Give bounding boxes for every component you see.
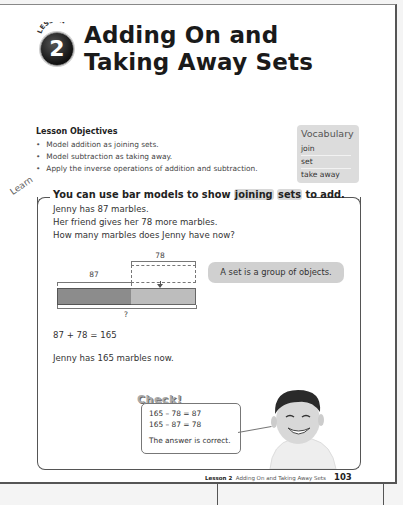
vocabulary-item: set [301, 156, 351, 169]
title-line-2: Taking Away Sets [84, 49, 313, 76]
problem-line: Her friend gives her 78 more marbles. [53, 217, 217, 227]
bar-label-whole: ? [118, 310, 134, 319]
objectives-list: Model addition as joining sets. Model su… [36, 139, 258, 175]
bar-label-87: 87 [84, 270, 104, 279]
objectives-heading: Lesson Objectives [36, 127, 117, 136]
lesson-badge: LESSON 2 [36, 22, 78, 64]
brace-total [57, 305, 197, 309]
set-definition-bubble: A set is a group of objects. [208, 262, 344, 283]
heading-text: to add. [302, 189, 345, 200]
bar-segment-87 [57, 288, 132, 305]
lesson-number: 2 [40, 32, 74, 66]
answer-sentence: Jenny has 165 marbles now. [53, 353, 174, 363]
equation: 87 + 78 = 165 [53, 330, 117, 340]
highlight-joining: joining [234, 189, 274, 200]
objective-item: Model subtraction as taking away. [36, 151, 258, 163]
bar-segment-78 [131, 288, 196, 305]
page-number: 103 [334, 472, 352, 482]
dashed-set-box [131, 265, 196, 283]
problem-line: How many marbles does Jenny have now? [53, 230, 235, 240]
learn-box-corner [37, 197, 50, 208]
brace-87 [57, 282, 132, 286]
footer-lesson-title: Adding On and Taking Away Sets [236, 475, 326, 481]
check-speech-bubble: 165 – 78 = 87 165 – 87 = 78 The answer i… [141, 403, 241, 454]
vocabulary-box: Vocabulary join set take away [297, 125, 359, 183]
vocabulary-item: join [301, 143, 351, 156]
check-conclusion: The answer is correct. [149, 436, 231, 445]
check-equation: 165 – 87 = 78 [149, 420, 201, 429]
page-title: Adding On and Taking Away Sets [84, 22, 313, 76]
page-edge-line [383, 483, 384, 505]
boy-photo [262, 384, 338, 469]
footer-lesson-number: Lesson 2 [205, 475, 232, 481]
page-edge-line [217, 483, 218, 505]
bar-label-78: 78 [150, 251, 170, 260]
learn-heading: You can use bar models to show joining s… [53, 189, 345, 200]
highlight-sets: sets [277, 189, 302, 200]
check-equation: 165 – 78 = 87 [149, 409, 201, 418]
vocabulary-title: Vocabulary [301, 128, 354, 139]
heading-text: You can use bar models to show [53, 189, 234, 200]
title-line-1: Adding On and [84, 22, 313, 49]
vocabulary-item: take away [301, 169, 351, 181]
objective-item: Model addition as joining sets. [36, 139, 258, 151]
problem-line: Jenny has 87 marbles. [53, 204, 149, 214]
footer-lesson: Lesson 2 Adding On and Taking Away Sets [205, 475, 326, 481]
objective-item: Apply the inverse operations of addition… [36, 163, 258, 175]
